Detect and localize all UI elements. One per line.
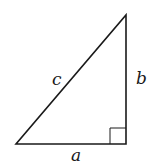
right-triangle-diagram: c b a <box>0 0 152 164</box>
right-angle-marker <box>110 128 126 144</box>
horizontal-leg-label: a <box>71 145 81 164</box>
hypotenuse-label: c <box>52 69 62 89</box>
vertical-leg-label: b <box>136 68 147 88</box>
triangle <box>16 15 126 144</box>
